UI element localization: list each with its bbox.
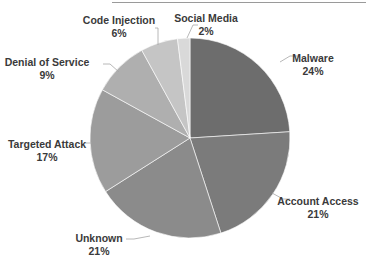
data-label-unknown: Unknown21% (75, 232, 122, 258)
category-name: Unknown (75, 232, 122, 245)
percent-value: 24% (292, 65, 333, 78)
data-label-social-media: Social Media2% (174, 12, 238, 38)
category-name: Social Media (174, 12, 238, 25)
category-name: Account Access (277, 195, 358, 208)
data-label-code-injection: Code Injection6% (83, 14, 155, 40)
data-label-malware: Malware24% (292, 52, 333, 78)
percent-value: 17% (8, 151, 86, 164)
category-name: Malware (292, 52, 333, 65)
pie-slice-malware (190, 38, 290, 138)
category-name: Code Injection (83, 14, 155, 27)
data-label-denial-of-service: Denial of Service9% (5, 56, 90, 82)
pie-chart (0, 0, 366, 265)
category-name: Denial of Service (5, 56, 90, 69)
percent-value: 6% (83, 27, 155, 40)
percent-value: 9% (5, 69, 90, 82)
percent-value: 21% (277, 208, 358, 221)
data-label-targeted-attack: Targeted Attack17% (8, 138, 86, 164)
data-label-account-access: Account Access21% (277, 195, 358, 221)
percent-value: 2% (174, 25, 238, 38)
leader-line (126, 236, 150, 239)
percent-value: 21% (75, 245, 122, 258)
leader-line (155, 28, 158, 45)
category-name: Targeted Attack (8, 138, 86, 151)
